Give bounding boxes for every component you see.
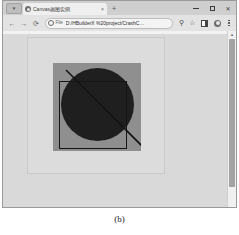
page-content bbox=[3, 31, 227, 207]
new-tab-button[interactable]: + bbox=[109, 4, 119, 14]
minimize-icon bbox=[193, 8, 199, 9]
scheme-indicator[interactable]: File bbox=[48, 20, 63, 26]
scroll-up-arrow-icon[interactable]: ▴ bbox=[228, 31, 236, 38]
tab-search-button[interactable]: ▾ bbox=[6, 3, 22, 14]
forward-button[interactable]: → bbox=[18, 17, 30, 29]
browser-toolbar: ← → ⟳ File D:/HBuilderX %20project/Crash… bbox=[3, 15, 236, 31]
page-top-gutter bbox=[3, 31, 227, 34]
scheme-label: File bbox=[56, 21, 63, 26]
three-dot-menu-icon bbox=[228, 25, 230, 27]
side-panel-button[interactable] bbox=[198, 17, 211, 29]
tab-strip: ▾ Canvas画图实例 × + ✕ bbox=[3, 1, 236, 15]
maximize-button[interactable] bbox=[204, 2, 220, 15]
page-favicon-icon bbox=[25, 6, 31, 12]
arrow-left-icon: ← bbox=[9, 20, 16, 27]
bookmark-button[interactable]: ☆ bbox=[187, 17, 198, 29]
drawing-canvas[interactable] bbox=[53, 63, 141, 151]
tab-title: Canvas画图实例 bbox=[33, 7, 100, 12]
page-viewport: ▴ bbox=[3, 31, 236, 207]
star-icon: ☆ bbox=[189, 19, 195, 27]
browser-menu-button[interactable] bbox=[224, 17, 234, 29]
caret-down-icon: ▾ bbox=[13, 6, 16, 11]
figure-caption: (b) bbox=[0, 214, 239, 224]
maximize-icon bbox=[210, 6, 215, 11]
url-text: D:/HBuilderX %20project/CrashC… bbox=[66, 21, 170, 26]
side-panel-icon bbox=[201, 20, 208, 27]
canvas-frame bbox=[27, 37, 165, 174]
back-button[interactable]: ← bbox=[6, 17, 18, 29]
address-bar[interactable]: File D:/HBuilderX %20project/CrashC… bbox=[45, 18, 173, 29]
zoom-search-button[interactable]: ⚲ bbox=[176, 17, 187, 29]
profile-avatar-icon bbox=[214, 20, 221, 27]
file-info-icon bbox=[48, 20, 54, 26]
reload-icon: ⟳ bbox=[33, 20, 39, 27]
three-dot-menu-icon bbox=[228, 22, 230, 24]
reload-button[interactable]: ⟳ bbox=[30, 17, 42, 29]
browser-window: ▾ Canvas画图实例 × + ✕ ← → ⟳ bbox=[2, 0, 237, 208]
window-controls: ✕ bbox=[188, 2, 236, 15]
arrow-right-icon: → bbox=[21, 20, 28, 27]
square-outline-shape bbox=[59, 81, 127, 149]
three-dot-menu-icon bbox=[228, 20, 230, 22]
magnifier-icon: ⚲ bbox=[179, 19, 184, 27]
profile-button[interactable] bbox=[211, 17, 224, 29]
close-icon: ✕ bbox=[225, 5, 230, 12]
browser-tab[interactable]: Canvas画图实例 × bbox=[23, 3, 107, 15]
vertical-scrollbar[interactable]: ▴ bbox=[227, 31, 236, 207]
scrollbar-thumb[interactable] bbox=[229, 39, 235, 187]
close-button[interactable]: ✕ bbox=[220, 2, 236, 15]
minimize-button[interactable] bbox=[188, 2, 204, 15]
tab-close-icon[interactable]: × bbox=[100, 7, 105, 12]
